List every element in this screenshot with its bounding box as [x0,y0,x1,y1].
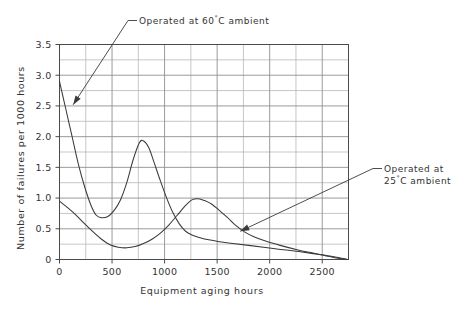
annotation-leader-lines [73,21,382,232]
annotation-25c-leader-line [240,169,373,232]
annotation-60c-leader-arrowhead [73,95,81,104]
svg-text:Operated at 60°C ambient: Operated at 60°C ambient [139,14,269,26]
y-tick-label: 0 [45,254,51,265]
svg-text:25°C ambient: 25°C ambient [384,174,451,186]
annotation-60c-label: Operated at 60°C ambient [139,14,269,26]
y-tick-label: 2.0 [35,131,51,142]
annotation-25c-line1: Operated at [384,164,444,174]
annotation-25c-line2-tail: C ambient [400,176,451,186]
series-curve-60c [60,81,349,259]
y-tick-label: 3.0 [35,70,51,81]
annotation-25c-line2-prefix: 25 [384,176,396,186]
axis-tick-labels: 0500100015002000250000.51.01.52.02.53.03… [35,39,334,277]
x-tick-label: 0 [56,266,62,277]
x-tick-label: 2500 [310,266,335,277]
y-tick-label: 1.0 [35,192,51,203]
chart-canvas: 0500100015002000250000.51.01.52.02.53.03… [0,0,472,309]
data-series-curves [60,81,349,259]
y-tick-label: 3.5 [35,39,51,50]
minor-gridlines [60,45,349,260]
axis-tickmarks [56,45,323,264]
x-tick-label: 2000 [257,266,282,277]
y-axis-title: Number of failures per 1000 hours [15,66,26,250]
x-axis-title: Equipment aging hours [140,285,263,296]
y-tick-label: 1.5 [35,162,51,173]
annotation-60c-leader-line [73,21,128,105]
y-tick-label: 0.5 [35,223,51,234]
annotation-60c-text-tail: C ambient [218,16,269,26]
x-tick-label: 1000 [152,266,177,277]
x-tick-label: 500 [103,266,122,277]
x-tick-label: 1500 [204,266,229,277]
y-tick-label: 2.5 [35,100,51,111]
annotation-25c-leader-arrowhead [240,225,249,232]
annotation-25c-label: Operated at 25°C ambient [384,164,451,186]
failure-rate-chart-figure: 0500100015002000250000.51.01.52.02.53.03… [0,0,472,309]
annotation-60c-text-main: Operated at 60 [139,16,215,26]
